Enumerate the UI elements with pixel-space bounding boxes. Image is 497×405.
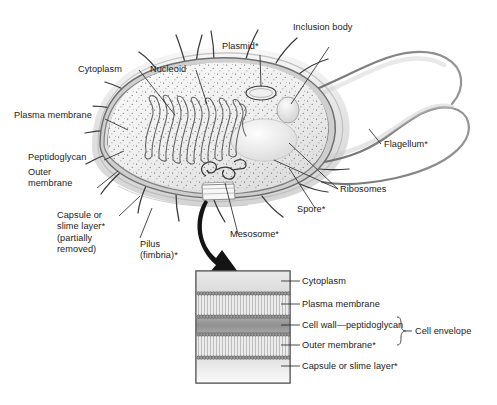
label-cytoplasm: Cytoplasm <box>78 64 122 75</box>
label-spore: Spore* <box>297 204 325 215</box>
label-outer-membrane: Outer membrane <box>28 167 72 190</box>
inset-layer-cytoplasm <box>196 271 290 292</box>
inclusion-body-shape <box>277 97 299 123</box>
diagram-artwork <box>0 0 497 405</box>
inset-label-outer-membrane: Outer membrane* <box>302 340 376 351</box>
label-mesosome: Mesosome* <box>230 229 279 240</box>
plasmid-shape <box>246 86 276 100</box>
inset-layer-capsule <box>196 359 290 383</box>
inset-label-capsule: Capsule or slime layer* <box>302 361 398 372</box>
inset-label-cell-envelope: Cell envelope <box>415 326 471 337</box>
inset-layer-cell-wall <box>196 318 290 333</box>
inset-label-plasma-membrane: Plasma membrane <box>302 299 380 310</box>
label-plasmid: Plasmid* <box>222 41 259 52</box>
label-flagellum: Flagellum* <box>384 139 428 150</box>
wall-cutout-notch <box>202 184 235 200</box>
label-ribosomes: Ribosomes <box>340 184 386 195</box>
label-peptidoglycan: Peptidoglycan <box>28 152 86 163</box>
inset-cell-envelope-detail <box>196 271 290 383</box>
label-plasma-membrane: Plasma membrane <box>14 110 92 121</box>
inset-label-cell-wall: Cell wall—peptidoglycan <box>302 320 403 331</box>
label-nucleoid: Nucleoid <box>150 64 186 75</box>
label-inclusion-body: Inclusion body <box>293 22 352 33</box>
label-pilus-fimbria: Pilus (fimbria)* <box>140 239 178 262</box>
bacterial-cell-diagram: Cytoplasm Nucleoid Plasmid* Inclusion bo… <box>0 0 497 405</box>
inset-label-cytoplasm: Cytoplasm <box>302 276 346 287</box>
label-capsule-slime-layer: Capsule or slime layer* (partially remov… <box>57 210 105 256</box>
